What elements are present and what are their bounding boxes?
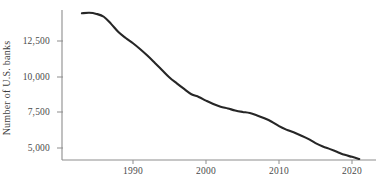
bank-count-line-chart: Number of U.S. banks 12,500 10,000 7,500… — [0, 0, 383, 191]
data-line-number-of-us-banks — [82, 13, 359, 159]
axis-spines — [62, 10, 376, 160]
x-axis-ticks — [133, 160, 352, 164]
chart-plot-area — [0, 0, 383, 191]
